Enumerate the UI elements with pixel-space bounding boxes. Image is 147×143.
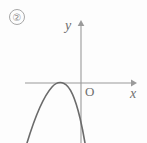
math-figure-panel: ② y x O — [0, 0, 147, 143]
parabola-curve — [27, 83, 85, 143]
x-axis-label: x — [130, 86, 136, 102]
y-axis-arrowhead — [78, 20, 85, 26]
origin-label: O — [85, 84, 94, 100]
y-axis-label: y — [65, 18, 71, 34]
option-number-badge: ② — [9, 9, 25, 25]
